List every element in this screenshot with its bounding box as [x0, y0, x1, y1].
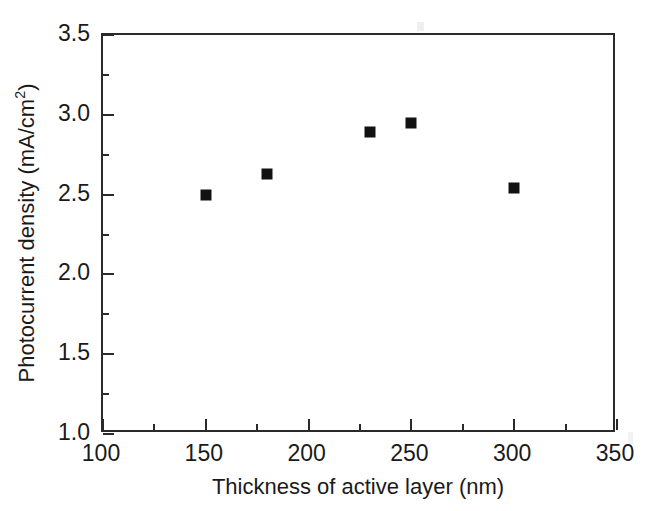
- photocurrent-vs-thickness-chart: 100150200250300350 1.01.52.02.53.03.5 Th…: [0, 0, 646, 511]
- y-tick-minor: [103, 313, 109, 315]
- x-tick-minor: [153, 424, 155, 430]
- x-tick-label: 350: [596, 440, 634, 467]
- data-point: [509, 183, 520, 194]
- y-tick-minor: [103, 74, 109, 76]
- x-tick-major: [410, 419, 412, 430]
- y-axis-title: Photocurrent density (mA/cm2): [7, 34, 47, 433]
- y-tick-major: [103, 273, 114, 275]
- y-tick-label: 3.0: [58, 99, 90, 126]
- y-tick-major: [103, 114, 114, 116]
- y-tick-label: 2.5: [58, 179, 90, 206]
- y-axis-title-close: ): [14, 84, 39, 91]
- y-axis-title-main: Photocurrent density (mA/cm: [14, 99, 39, 383]
- x-tick-label: 250: [390, 440, 428, 467]
- y-tick-minor: [103, 234, 109, 236]
- x-tick-major: [513, 419, 515, 430]
- x-tick-label: 200: [287, 440, 325, 467]
- y-tick-major: [103, 353, 114, 355]
- x-tick-major: [616, 419, 618, 430]
- y-tick-label: 2.0: [58, 259, 90, 286]
- x-tick-minor: [565, 424, 567, 430]
- scan-artifact-top: [417, 22, 424, 31]
- y-tick-major: [103, 194, 114, 196]
- x-tick-minor: [256, 424, 258, 430]
- x-tick-major: [205, 419, 207, 430]
- y-tick-minor: [103, 154, 109, 156]
- data-point: [200, 189, 211, 200]
- x-tick-label: 150: [185, 440, 223, 467]
- data-point: [262, 168, 273, 179]
- x-tick-label: 300: [493, 440, 531, 467]
- y-axis-title-superscript: 2: [12, 91, 28, 99]
- x-tick-major: [102, 419, 104, 430]
- y-tick-label: 3.5: [58, 20, 90, 47]
- x-tick-major: [308, 419, 310, 430]
- data-point: [406, 117, 417, 128]
- y-tick-major: [103, 34, 114, 36]
- data-point: [365, 127, 376, 138]
- plot-area: [101, 33, 615, 432]
- y-tick-label: 1.5: [58, 339, 90, 366]
- x-axis-title: Thickness of active layer (nm): [101, 474, 615, 500]
- x-tick-minor: [462, 424, 464, 430]
- x-tick-minor: [359, 424, 361, 430]
- y-tick-minor: [103, 393, 109, 395]
- y-tick-label: 1.0: [58, 419, 90, 446]
- y-tick-major: [103, 433, 114, 435]
